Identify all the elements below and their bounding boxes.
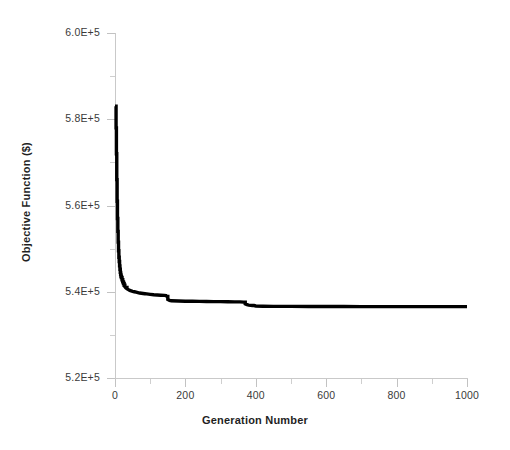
x-tick-major: [115, 379, 116, 387]
y-tick-major: [107, 292, 115, 293]
chart-figure: Objective Function ($) Generation Number…: [0, 0, 510, 450]
y-tick-major: [107, 206, 115, 207]
x-tick-major: [326, 379, 327, 387]
x-tick-major: [256, 379, 257, 387]
y-tick-label-wrapper: 5.8E+5: [34, 112, 100, 126]
x-tick-label: 1000: [437, 389, 497, 401]
x-tick-minor: [221, 379, 222, 384]
y-tick-major: [107, 119, 115, 120]
y-axis-title: Objective Function ($): [20, 102, 32, 302]
y-tick-label: 6.0E+5: [34, 26, 100, 38]
x-axis-title: Generation Number: [0, 414, 510, 426]
x-tick-label: 600: [296, 389, 356, 401]
x-tick-label: 0: [85, 389, 145, 401]
y-tick-label: 5.4E+5: [34, 285, 100, 297]
x-tick-label: 200: [155, 389, 215, 401]
x-tick-label: 400: [226, 389, 286, 401]
x-tick-major: [467, 379, 468, 387]
y-tick-label-wrapper: 5.4E+5: [34, 285, 100, 299]
y-tick-label: 5.2E+5: [34, 371, 100, 383]
y-tick-label: 5.6E+5: [34, 199, 100, 211]
y-tick-label: 5.8E+5: [34, 112, 100, 124]
x-tick-minor: [150, 379, 151, 384]
plot-area: [115, 33, 467, 378]
x-tick-major: [397, 379, 398, 387]
x-tick-minor: [291, 379, 292, 384]
x-tick-label: 800: [367, 389, 427, 401]
x-tick-minor: [361, 379, 362, 384]
x-tick-major: [185, 379, 186, 387]
y-tick-label-wrapper: 6.0E+5: [34, 26, 100, 40]
y-tick-major: [107, 33, 115, 34]
x-tick-minor: [432, 379, 433, 384]
y-tick-major: [107, 378, 115, 379]
y-tick-label-wrapper: 5.6E+5: [34, 199, 100, 213]
y-tick-label-wrapper: 5.2E+5: [34, 371, 100, 385]
